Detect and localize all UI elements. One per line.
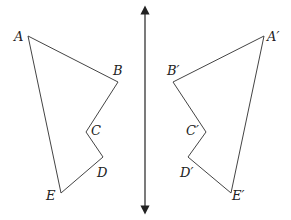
reflected-vertex-label: D′: [179, 165, 193, 180]
original-vertex-label: D: [96, 165, 108, 180]
reflected-vertex-label: A′: [266, 29, 279, 44]
reflected-vertex-label: C′: [186, 123, 199, 138]
reflected-vertex-label: B′: [166, 63, 180, 78]
original-vertex-label: B: [112, 63, 123, 78]
reflected-vertex-label: E′: [231, 188, 244, 203]
reflected-vertex-labels: A′B′C′D′E′: [166, 29, 279, 203]
original-vertex-label: A: [13, 29, 23, 44]
original-vertex-label: C: [91, 123, 101, 138]
original-vertex-label: E: [45, 188, 56, 203]
reflection-diagram: ABCDE A′B′C′D′E′: [0, 0, 291, 220]
original-vertex-labels: ABCDE: [13, 29, 123, 203]
